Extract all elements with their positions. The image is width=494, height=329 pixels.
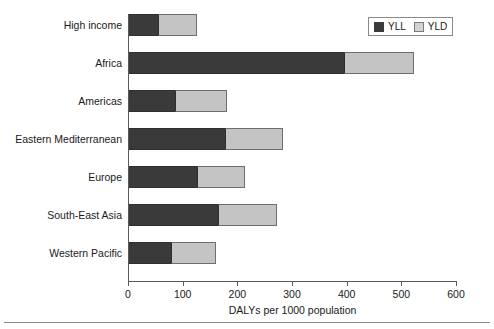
bar-segment-yld [158, 14, 197, 36]
category-label-high-income: High income [0, 14, 122, 36]
x-axis-tick-label: 300 [283, 288, 301, 300]
x-axis-tick [128, 281, 129, 286]
y-axis-line [128, 14, 129, 281]
bar-segment-yld [197, 166, 245, 188]
bar-segment-yll [128, 166, 197, 188]
table-row [128, 166, 245, 188]
bar-segment-yld [344, 52, 414, 74]
x-axis-tick-label: 0 [125, 288, 131, 300]
category-label-eastern-mediterranean: Eastern Mediterranean [0, 128, 122, 150]
x-axis-tick-label: 100 [174, 288, 192, 300]
category-label-south-east-asia: South-East Asia [0, 204, 122, 226]
bar-segment-yll [128, 242, 171, 264]
light-square-icon [414, 22, 424, 32]
table-row [128, 52, 414, 74]
x-axis-title: DALYs per 1000 population [128, 304, 457, 316]
x-axis-tick-label: 600 [447, 288, 465, 300]
footer-divider [4, 322, 490, 323]
category-label-africa: Africa [0, 52, 122, 74]
table-row [128, 14, 197, 36]
x-axis-tick-label: 400 [338, 288, 356, 300]
table-row [128, 128, 283, 150]
category-axis-labels: High income Africa Americas Eastern Medi… [0, 14, 122, 281]
legend: YLL YLD [368, 17, 453, 36]
bar-segment-yll [128, 128, 225, 150]
category-label-americas: Americas [0, 90, 122, 112]
bar-segment-yld [225, 128, 283, 150]
bar-segment-yld [175, 90, 227, 112]
x-axis-tick-label: 500 [393, 288, 411, 300]
bar-segment-yld [171, 242, 216, 264]
category-label-europe: Europe [0, 166, 122, 188]
bar-segment-yll [128, 52, 344, 74]
legend-label-yll: YLL [388, 21, 406, 32]
category-label-western-pacific: Western Pacific [0, 242, 122, 264]
bar-segment-yll [128, 90, 175, 112]
bar-segment-yll [128, 14, 158, 36]
x-axis-tick [292, 281, 293, 286]
legend-label-yld: YLD [428, 21, 447, 32]
plot-area [128, 14, 456, 281]
x-axis-tick [401, 281, 402, 286]
dark-square-icon [374, 22, 384, 32]
x-axis-tick [237, 281, 238, 286]
x-axis-tick [347, 281, 348, 286]
x-axis-tick [183, 281, 184, 286]
stacked-bar-chart: High income Africa Americas Eastern Medi… [0, 0, 494, 329]
legend-item-yld: YLD [414, 21, 447, 32]
x-axis-tick-label: 200 [229, 288, 247, 300]
table-row [128, 90, 227, 112]
table-row [128, 242, 216, 264]
bar-segment-yll [128, 204, 218, 226]
legend-item-yll: YLL [374, 21, 406, 32]
bar-segment-yld [218, 204, 276, 226]
table-row [128, 204, 277, 226]
x-axis-tick [456, 281, 457, 286]
